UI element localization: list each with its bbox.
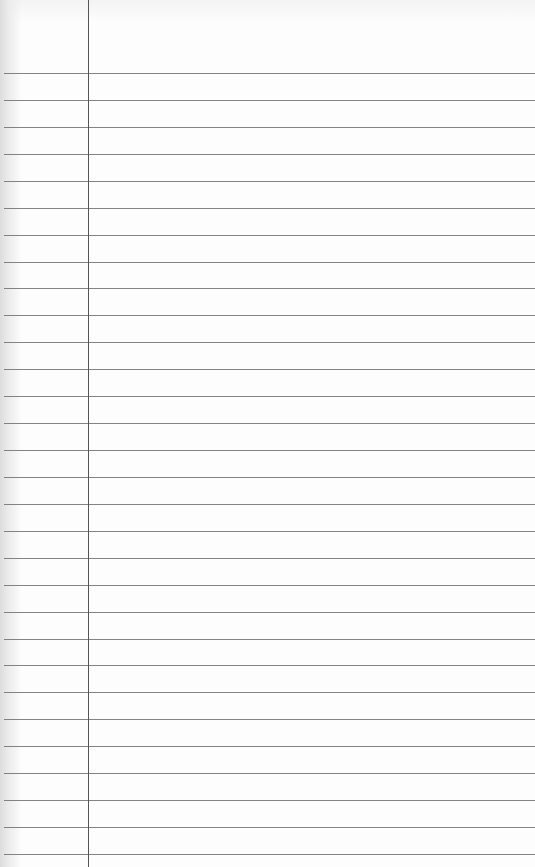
ruled-line xyxy=(4,208,535,209)
ruled-line xyxy=(4,396,535,397)
ruled-line xyxy=(4,315,535,316)
ruled-line xyxy=(4,719,535,720)
ruled-line xyxy=(4,746,535,747)
ruled-line xyxy=(4,235,535,236)
ruled-line xyxy=(4,477,535,478)
ruled-line xyxy=(4,342,535,343)
ruled-line xyxy=(4,127,535,128)
ruled-line xyxy=(4,181,535,182)
ruled-line xyxy=(4,800,535,801)
ruled-line xyxy=(4,854,535,855)
ruled-line xyxy=(4,558,535,559)
ruled-line xyxy=(4,423,535,424)
ruled-line xyxy=(4,639,535,640)
ruled-line xyxy=(4,100,535,101)
ruled-line xyxy=(4,585,535,586)
ruled-line xyxy=(4,773,535,774)
ruled-line xyxy=(4,612,535,613)
ruled-line xyxy=(4,450,535,451)
ruled-line xyxy=(4,531,535,532)
ruled-line xyxy=(4,692,535,693)
ruled-line xyxy=(4,504,535,505)
binding-shadow xyxy=(0,0,22,867)
ruled-line xyxy=(4,827,535,828)
ruled-line xyxy=(4,154,535,155)
lined-paper-page xyxy=(0,0,535,867)
ruled-line xyxy=(4,369,535,370)
ruled-line xyxy=(4,288,535,289)
ruled-line xyxy=(4,73,535,74)
top-bleed-through xyxy=(0,0,535,22)
margin-line xyxy=(88,0,89,867)
ruled-line xyxy=(4,665,535,666)
ruled-line xyxy=(4,262,535,263)
